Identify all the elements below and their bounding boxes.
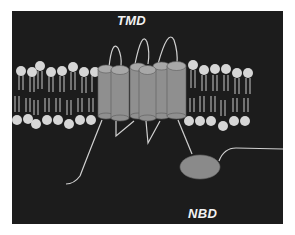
nbd-label: NBD	[188, 206, 217, 221]
helix-4	[139, 66, 156, 122]
lipid-bilayer-right	[184, 60, 253, 131]
intracellular-loops	[66, 120, 283, 184]
helix-6	[167, 62, 186, 120]
tmd-label: TMD	[117, 13, 146, 28]
abc-transporter-diagram	[0, 0, 295, 235]
transmembrane-helices	[98, 62, 186, 122]
helix-2	[111, 66, 129, 122]
nbd-domain	[180, 155, 220, 179]
lipid-bilayer-left	[12, 61, 100, 129]
extracellular-loops	[109, 37, 177, 67]
